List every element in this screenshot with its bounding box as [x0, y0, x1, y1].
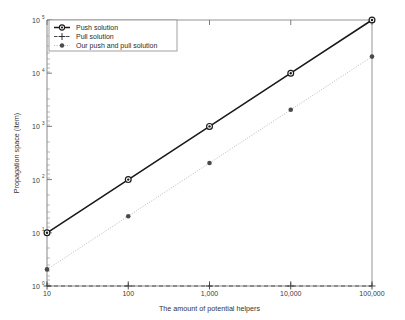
y-tick-label-4: 10 [32, 70, 40, 77]
data-point-center [46, 232, 48, 234]
data-point [126, 214, 131, 219]
data-point [207, 161, 212, 166]
x-axis-title: The amount of potential helpers [159, 304, 260, 313]
plot-frame [47, 20, 372, 286]
x-axis-major-ticks [47, 20, 372, 286]
x-tick-labels: 10 100 1,000 10,000 100,000 [43, 290, 385, 297]
y-tick-exp-2: 2 [42, 174, 45, 179]
y-tick-exp-0: 0 [42, 281, 45, 286]
legend-label-our-push-and-pull-solution: Our push and pull solution [76, 42, 157, 50]
legend-label-pull-solution: Pull solution [76, 33, 114, 40]
y-tick-label-1: 10 [32, 230, 40, 237]
legend-label-push-solution: Push solution [76, 24, 118, 31]
y-tick-labels: 10 0 10 1 10 2 10 3 10 4 10 5 [32, 15, 45, 291]
data-point [45, 267, 50, 272]
x-tick-label-2: 1,000 [201, 290, 219, 297]
y-tick-label-2: 10 [32, 177, 40, 184]
data-point-center [208, 125, 210, 127]
data-point [370, 54, 375, 59]
y-tick-exp-5: 5 [42, 15, 45, 20]
y-tick-label-3: 10 [32, 123, 40, 130]
dot-marker-icon [60, 43, 64, 47]
y-axis-major-ticks [47, 20, 52, 286]
x-tick-label-1: 100 [122, 290, 134, 297]
legend-item-push-solution[interactable]: Push solution [54, 24, 118, 31]
y-tick-label-5: 10 [32, 17, 40, 24]
series-our-push-and-pull-solution [45, 54, 375, 271]
data-point-center [371, 19, 373, 21]
x-tick-label-0: 10 [43, 290, 51, 297]
y-tick-exp-4: 4 [42, 68, 45, 73]
y-axis-title: Propagation space (item) [12, 113, 21, 193]
legend[interactable]: Push solution Pull solution Our push and… [49, 20, 177, 51]
data-point-center [290, 72, 292, 74]
y-tick-label-0: 10 [32, 283, 40, 290]
figure-canvas: 10 0 10 1 10 2 10 3 10 4 10 5 [0, 0, 405, 320]
circle-marker-center-icon [61, 26, 63, 28]
data-point [288, 108, 293, 113]
y-tick-exp-3: 3 [42, 121, 45, 126]
x-tick-label-3: 10,000 [280, 290, 302, 297]
data-point-center [127, 178, 129, 180]
chart-svg: 10 0 10 1 10 2 10 3 10 4 10 5 [0, 0, 405, 320]
x-tick-label-4: 100,000 [359, 290, 384, 297]
